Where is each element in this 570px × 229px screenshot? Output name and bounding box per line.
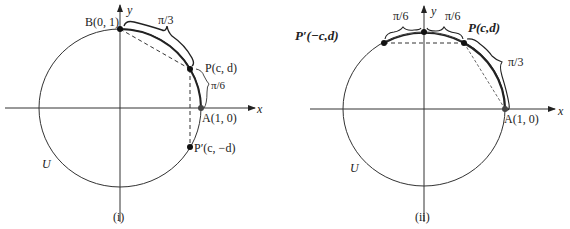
point-p <box>187 66 193 72</box>
y-axis-label: y <box>430 4 437 18</box>
y-axis-label: y <box>126 3 133 17</box>
point-top <box>421 29 427 35</box>
figure-caption: (ii) <box>415 210 430 224</box>
arc-label-pi-3: π/3 <box>158 13 173 27</box>
arc-label-pi-3: π/3 <box>508 55 523 69</box>
point-p-prime-label: P′(−c,d) <box>295 28 339 43</box>
circle-label-u: U <box>350 161 360 175</box>
point-a-label: A(1, 0) <box>202 111 237 125</box>
point-b-label: B(0, 1) <box>85 15 119 29</box>
arc-label-pi-6: π/6 <box>211 79 226 91</box>
chord-p-a <box>464 43 505 109</box>
point-p-label: P(c, d) <box>205 61 237 75</box>
x-axis-label: x <box>256 102 263 116</box>
chord-b-p <box>120 29 190 69</box>
point-p-prime <box>381 40 387 46</box>
unit-circle-diagrams: y x B(0, 1) π/3 P(c, d) π/6 A(1, 0) P′(c… <box>0 0 570 229</box>
circle-label-u: U <box>42 157 52 171</box>
point-p-prime <box>187 144 193 150</box>
figure-caption: (i) <box>113 210 124 224</box>
arc-label-pi-6-left: π/6 <box>393 9 408 23</box>
figure-ii: y x π/6 π/6 P′(−c,d) P(c,d) π/3 A(1, 0) … <box>295 4 564 224</box>
x-axis-label: x <box>557 104 564 118</box>
arc-label-pi-6-right: π/6 <box>445 9 460 23</box>
point-a-label: A(1, 0) <box>504 112 539 126</box>
point-p <box>461 40 467 46</box>
point-p-label: P(c,d) <box>468 20 500 35</box>
figure-i: y x B(0, 1) π/3 P(c, d) π/6 A(1, 0) P′(c… <box>5 3 263 224</box>
point-p-prime-label: P′(c, −d) <box>194 141 235 155</box>
